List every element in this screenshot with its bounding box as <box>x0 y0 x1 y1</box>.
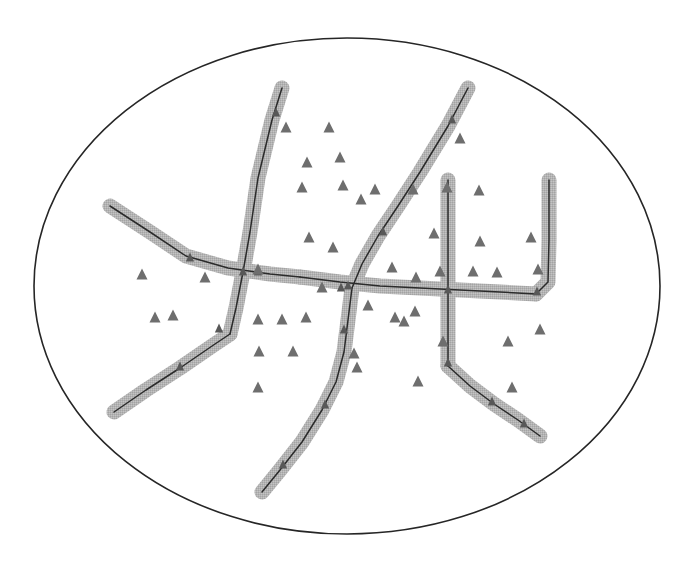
figure-root <box>0 0 688 571</box>
network-diagram <box>0 0 688 571</box>
